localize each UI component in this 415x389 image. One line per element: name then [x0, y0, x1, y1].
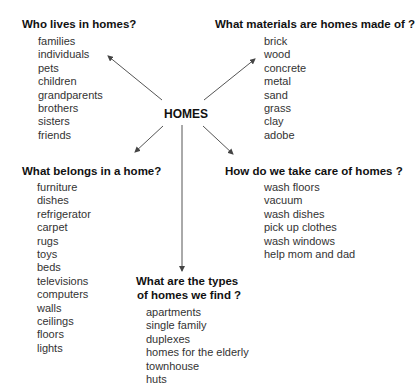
list-item: concrete — [264, 62, 306, 75]
list-item: friends — [38, 129, 103, 142]
arrow-to-belongs — [135, 126, 163, 152]
list-item: help mom and dad — [264, 248, 355, 261]
list-item: televisions — [37, 275, 91, 288]
list-item: huts — [146, 373, 249, 386]
list-item: dishes — [37, 194, 91, 207]
list-item: apartments — [146, 306, 249, 319]
list-item: wash dishes — [264, 208, 355, 221]
list-item: townhouse — [146, 360, 249, 373]
list-home-types: apartments single family duplexes homes … — [146, 306, 249, 386]
list-item: pets — [38, 62, 103, 75]
list-item: single family — [146, 319, 249, 332]
list-item: toys — [37, 248, 91, 261]
list-item: refrigerator — [37, 208, 91, 221]
list-item: floors — [37, 328, 91, 341]
list-item: rugs — [37, 235, 91, 248]
list-item: furniture — [37, 181, 91, 194]
list-item: sand — [264, 89, 306, 102]
list-take-care: wash floors vacuum wash dishes pick up c… — [264, 181, 355, 261]
arrow-to-who — [108, 56, 162, 100]
heading-materials: What materials are homes made of ? — [215, 18, 415, 32]
heading-types-line2: of homes we find ? — [137, 289, 241, 303]
list-item: beds — [37, 261, 91, 274]
list-item: duplexes — [146, 333, 249, 346]
list-item: carpet — [37, 221, 91, 234]
arrow-to-care — [203, 126, 233, 154]
list-item: metal — [264, 75, 306, 88]
list-item: wood — [264, 48, 306, 61]
list-item: pick up clothes — [264, 221, 355, 234]
list-item: children — [38, 75, 103, 88]
heading-who-lives: Who lives in homes? — [22, 18, 136, 32]
list-item: sisters — [38, 115, 103, 128]
list-what-belongs: furniture dishes refrigerator carpet rug… — [37, 181, 91, 355]
list-item: wash windows — [264, 235, 355, 248]
list-item: walls — [37, 302, 91, 315]
list-item: families — [38, 35, 103, 48]
list-item: brick — [264, 35, 306, 48]
list-item: wash floors — [264, 181, 355, 194]
list-who-lives: families individuals pets children grand… — [38, 35, 103, 142]
list-item: grass — [264, 102, 306, 115]
list-item: lights — [37, 342, 91, 355]
list-item: brothers — [38, 102, 103, 115]
list-item: clay — [264, 115, 306, 128]
heading-take-care: How do we take care of homes ? — [225, 165, 403, 179]
list-item: individuals — [38, 48, 103, 61]
heading-types-line1: What are the types — [136, 275, 238, 289]
list-materials: brick wood concrete metal sand grass cla… — [264, 35, 306, 142]
list-item: adobe — [264, 129, 306, 142]
heading-what-belongs: What belongs in a home? — [22, 165, 161, 179]
center-node-homes: HOMES — [164, 107, 208, 121]
list-item: ceilings — [37, 315, 91, 328]
arrow-to-materials — [204, 59, 255, 100]
list-item: vacuum — [264, 194, 355, 207]
list-item: homes for the elderly — [146, 346, 249, 359]
list-item: grandparents — [38, 89, 103, 102]
list-item: computers — [37, 288, 91, 301]
